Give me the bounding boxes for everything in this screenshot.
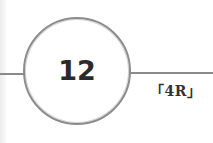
chapter-label: 「4R」 — [150, 80, 201, 100]
divider-line-left — [0, 73, 24, 75]
page-edge — [0, 0, 6, 143]
divider-line-right — [130, 72, 213, 74]
chapter-number: 12 — [58, 55, 96, 86]
number-circle: 12 — [23, 17, 131, 125]
